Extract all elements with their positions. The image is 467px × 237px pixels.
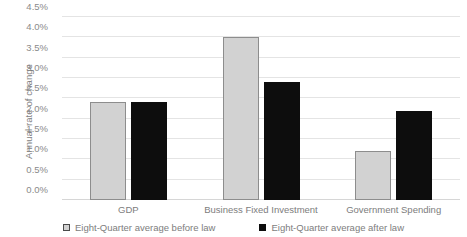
y-axis-tick-label: 4.0% [8,21,48,32]
chart-legend: Eight-Quarter average before lawEight-Qu… [0,222,467,233]
bar [223,37,259,200]
bar-chart: Annual rate of change 0.0%0.5%1.0%1.5%2.… [0,0,467,237]
y-axis-tick-label: 3.5% [8,42,48,53]
bar [396,111,432,200]
bar [90,102,126,200]
legend-item[interactable]: Eight-Quarter average after law [259,222,404,233]
legend-item[interactable]: Eight-Quarter average before law [63,222,215,233]
y-axis-tick-label: 4.5% [8,1,48,12]
plot-area: 0.0%0.5%1.0%1.5%2.0%2.5%3.0%3.5%4.0%4.5% [62,17,460,200]
y-axis-tick-label: 2.0% [8,103,48,114]
legend-label: Eight-Quarter average before law [75,222,215,233]
bar [131,102,167,200]
bars-layer [62,17,460,200]
y-axis-tick-label: 0.5% [8,164,48,175]
bar [264,82,300,200]
y-axis-tick-label: 3.0% [8,62,48,73]
category-label: Government Spending [346,204,441,215]
y-axis-tick-label: 1.5% [8,123,48,134]
y-axis-tick-label: 0.0% [8,184,48,195]
legend-swatch-icon [259,224,266,231]
category-label: Business Fixed Investment [204,204,318,215]
y-axis-tick-label: 2.5% [8,82,48,93]
y-axis-tick-label: 1.0% [8,143,48,154]
category-label: GDP [118,204,139,215]
legend-swatch-icon [63,224,70,231]
legend-label: Eight-Quarter average after law [271,222,404,233]
bar [355,151,391,200]
